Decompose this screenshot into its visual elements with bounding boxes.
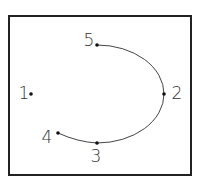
point-marker (95, 141, 99, 145)
point-marker (29, 92, 33, 96)
diagram-canvas: 12345 (0, 0, 198, 188)
point-5: 5 (84, 30, 99, 50)
point-2: 2 (162, 83, 182, 103)
point-4: 4 (42, 127, 60, 147)
point-label: 2 (172, 83, 183, 103)
point-label: 1 (19, 83, 30, 103)
point-1: 1 (19, 83, 33, 103)
points-layer: 12345 (19, 30, 183, 166)
curve-4-3-2-5 (58, 45, 164, 143)
point-label: 5 (84, 30, 95, 50)
point-3: 3 (91, 141, 102, 166)
point-marker (162, 92, 166, 96)
point-marker (95, 43, 99, 47)
point-label: 4 (42, 127, 53, 147)
diagram-svg: 12345 (0, 0, 198, 188)
point-marker (56, 131, 60, 135)
point-label: 3 (91, 146, 102, 166)
